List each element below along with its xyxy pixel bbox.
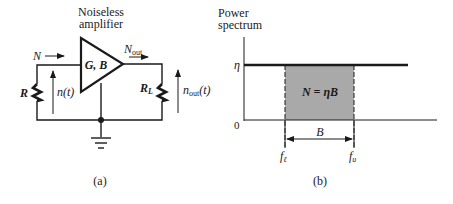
caption-a: (a): [93, 174, 106, 188]
load-resistor-label: RL: [139, 81, 153, 96]
panel-b-spectrum: Power spectrum η 0 N = ηB B fℓ fu (b): [218, 6, 437, 188]
amplifier-params: G, B: [85, 58, 108, 72]
load-resistor-icon: [158, 84, 166, 101]
caption-b: (b): [313, 174, 327, 188]
source-resistor-icon: [33, 84, 41, 101]
f-upper-label: fu: [349, 149, 356, 164]
eta-label: η: [234, 58, 240, 72]
output-noise-label: nout(t): [183, 83, 211, 98]
input-noise-label: n(t): [57, 85, 74, 99]
figure: Noiseless amplifier G, B R RL N Nout n(t…: [0, 0, 453, 204]
area-label: N = ηB: [301, 85, 338, 99]
junction-dot: [98, 117, 104, 123]
bandwidth-label: B: [316, 125, 324, 139]
amplifier-title-line2: amplifier: [79, 17, 123, 31]
panel-a-circuit: Noiseless amplifier G, B R RL N Nout n(t…: [19, 5, 211, 188]
input-noise-power-label: N: [32, 49, 42, 63]
ground-icon: [91, 138, 111, 148]
output-noise-power-label: Nout: [123, 42, 143, 57]
y-axis-label-line2: spectrum: [218, 18, 263, 32]
f-lower-label: fℓ: [280, 149, 287, 164]
source-resistor-label: R: [19, 86, 28, 100]
zero-label: 0: [234, 119, 240, 131]
